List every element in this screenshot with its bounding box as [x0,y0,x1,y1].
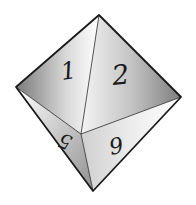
face-label-2: 2 [109,58,130,91]
octahedron-die: 1 2 5 9 [0,0,196,205]
